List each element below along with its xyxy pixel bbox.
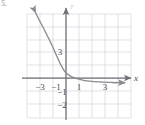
axes [22,8,131,120]
x-tick-label-pos1: 1 [77,82,82,92]
y-axis-label: y [69,2,74,10]
y-tick-label-pos3: 3 [58,47,63,57]
grid-lines [27,14,131,118]
x-axis-label: x [133,73,138,83]
problem-number: 5. [1,0,7,8]
coordinate-plot: x y −3 −1 1 3 3 −1 −2 [0,0,145,125]
x-tick-label-neg3: −3 [35,82,45,92]
y-tick-label-neg1: −1 [57,87,67,97]
y-tick-label-neg2: −2 [57,100,67,110]
x-tick-label-pos3: 3 [103,82,108,92]
figure-canvas: 5. [0,0,145,125]
exponential-curve [36,13,125,83]
